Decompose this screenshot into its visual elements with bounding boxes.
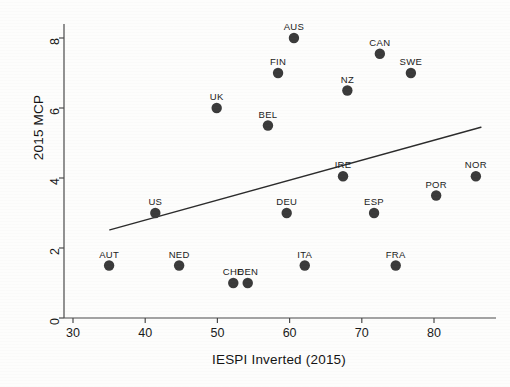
data-point-label-POR: POR: [425, 179, 447, 190]
data-point-label-FRA: FRA: [386, 249, 406, 260]
x-axis-title: IESPI Inverted (2015): [0, 352, 510, 367]
data-point-SWE[interactable]: [406, 68, 416, 78]
data-point-label-NZ: NZ: [341, 74, 354, 85]
data-point-label-UK: UK: [210, 91, 224, 102]
data-point-label-ITA: ITA: [297, 249, 312, 260]
data-point-label-SWE: SWE: [400, 56, 423, 67]
data-point-IRE[interactable]: [338, 171, 348, 181]
data-point-NZ[interactable]: [342, 85, 352, 95]
data-point-CHE[interactable]: [228, 278, 238, 288]
data-point-NED[interactable]: [174, 260, 184, 270]
y-tick-label-2: 2: [48, 248, 62, 255]
data-point-UK[interactable]: [211, 103, 221, 113]
data-point-label-AUS: AUS: [284, 21, 304, 32]
data-point-label-NED: NED: [169, 249, 190, 260]
data-point-POR[interactable]: [431, 190, 441, 200]
x-tick-label-40: 40: [138, 326, 152, 340]
data-point-US[interactable]: [150, 208, 160, 218]
data-point-DEN[interactable]: [243, 278, 253, 288]
data-point-ITA[interactable]: [300, 260, 310, 270]
x-tick-label-50: 50: [210, 326, 224, 340]
data-point-NOR[interactable]: [471, 171, 481, 181]
data-point-label-US: US: [148, 196, 162, 207]
y-tick-label-0: 0: [48, 318, 62, 325]
x-tick-label-80: 80: [427, 326, 441, 340]
y-tick-label-4: 4: [48, 178, 62, 185]
x-tick-label-70: 70: [355, 326, 369, 340]
data-point-BEL[interactable]: [263, 120, 273, 130]
y-tick-label-8: 8: [48, 38, 62, 45]
data-point-label-CAN: CAN: [369, 37, 390, 48]
data-point-FRA[interactable]: [391, 260, 401, 270]
data-point-label-IRE: IRE: [335, 159, 352, 170]
y-axis-title: 2015 MCP: [31, 68, 46, 188]
data-point-label-BEL: BEL: [259, 109, 278, 120]
data-point-label-DEN: DEN: [237, 266, 258, 277]
data-point-label-ESP: ESP: [364, 196, 384, 207]
data-point-DEU[interactable]: [282, 208, 292, 218]
x-tick-label-60: 60: [283, 326, 297, 340]
scatter-plot-figure: 2015 MCP IESPI Inverted (2015) 304050607…: [0, 0, 510, 387]
data-point-AUT[interactable]: [104, 260, 114, 270]
data-point-FIN[interactable]: [273, 68, 283, 78]
data-point-label-DEU: DEU: [276, 196, 297, 207]
data-point-AUS[interactable]: [289, 33, 299, 43]
data-point-ESP[interactable]: [369, 208, 379, 218]
data-point-label-FIN: FIN: [270, 56, 286, 67]
y-tick-label-6: 6: [48, 108, 62, 115]
data-point-label-NOR: NOR: [465, 159, 487, 170]
x-tick-label-30: 30: [66, 326, 80, 340]
data-point-CAN[interactable]: [375, 49, 385, 59]
data-point-label-AUT: AUT: [99, 249, 119, 260]
